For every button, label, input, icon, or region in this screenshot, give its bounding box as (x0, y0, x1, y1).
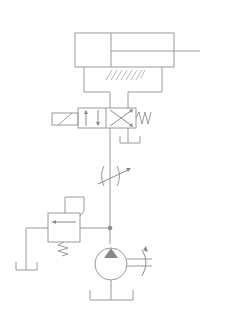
cylinder-mount-hatch (106, 70, 145, 80)
solenoid-icon (52, 113, 78, 125)
variable-displacement-arrow-icon (142, 250, 146, 276)
hydraulic-circuit-diagram (0, 0, 225, 318)
tank-valve (120, 128, 140, 143)
cylinder (75, 33, 200, 80)
pump-direction-triangle (104, 248, 118, 258)
relief-valve (26, 197, 84, 270)
adjust-arrow-icon (98, 169, 130, 184)
spring-icon (136, 112, 151, 124)
directional-valve (52, 108, 151, 128)
spring-icon (58, 242, 68, 256)
pump (95, 246, 152, 300)
cylinder-port-lines (84, 67, 162, 108)
throttle-valve (98, 166, 131, 186)
